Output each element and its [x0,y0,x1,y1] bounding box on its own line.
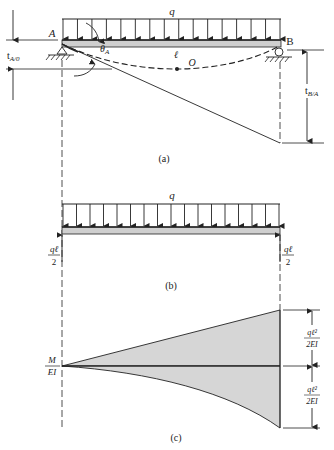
tA0-label: tA/0 [7,50,20,63]
label-o: O [188,57,195,68]
svg-text:2EI: 2EI [306,397,318,406]
load-arrows-b [63,204,279,226]
svg-text:qℓ²: qℓ² [307,328,317,337]
svg-text:2: 2 [52,257,57,267]
point-o-marker [175,67,179,71]
load-label-b: q [169,189,175,201]
svg-text:qℓ: qℓ [284,244,293,254]
beam-deflection-figure: q A B O [0,0,334,450]
lower-dim-label: qℓ² 2EI [304,385,320,406]
caption-b: (b) [165,280,177,292]
label-b: B [286,35,293,47]
panel-b: q qℓ 2 qℓ 2 (b) [48,189,294,292]
panel-c: M EI qℓ² 2EI qℓ² 2EI (c) [45,310,320,444]
angle-arrow-bottom [74,64,95,76]
load-label-a: q [169,5,175,17]
caption-a: (a) [158,153,169,165]
beam-b [62,227,280,234]
beam-a [62,40,281,47]
panel-a: q A B O [6,5,324,165]
svg-text:M: M [47,355,56,365]
upper-dim-label: qℓ² 2EI [304,328,320,349]
reaction-label-right: qℓ 2 [282,244,294,267]
negative-moment-area [62,366,280,428]
angle-arrow-top [86,23,99,42]
load-arrows-a [63,19,280,39]
span-label: ℓ [174,49,178,60]
svg-text:qℓ: qℓ [50,244,59,254]
svg-text:2EI: 2EI [306,340,318,349]
caption-c: (c) [170,432,181,444]
label-a: A [48,27,56,39]
svg-text:EI: EI [47,367,57,377]
positive-moment-area [62,310,280,366]
reaction-label-left: qℓ 2 [48,244,60,267]
axis-label-m-over-ei: M EI [45,355,60,377]
svg-text:2: 2 [286,257,291,267]
svg-text:qℓ²: qℓ² [307,385,317,394]
